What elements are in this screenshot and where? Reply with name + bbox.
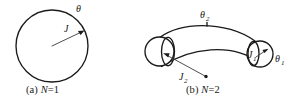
svg-text:2: 2 [206,15,210,23]
svg-text:θ: θ [200,9,205,20]
panel-b-graphic: θ 2 θ 1 J 1 J 2 [145,9,285,85]
caption-a-symbol: N [41,84,48,95]
svg-text:1: 1 [281,59,285,67]
caption-b-value: =2 [208,84,219,95]
current-label-j: J [64,23,69,34]
left-end-circle [145,37,174,66]
angle-label-theta-1: θ 1 [275,53,285,67]
angle-label-theta-2: θ 2 [200,9,210,23]
figure-root: θ J [0,0,295,107]
angle-label-theta: θ [76,3,81,14]
caption-a-prefix: (a) [26,84,41,95]
panel-a-graphic: θ J [16,3,88,82]
caption-a-value: =1 [48,84,59,95]
svg-text:θ: θ [275,53,280,64]
svg-text:1: 1 [253,55,257,63]
caption-b-prefix: (b) [186,84,201,95]
caption-panel-b: (b) N=2 [186,84,220,95]
current-label-j-2: J 2 [179,71,188,85]
caption-panel-a: (a) N=1 [26,84,59,95]
j-2-leader-dot [204,75,207,78]
